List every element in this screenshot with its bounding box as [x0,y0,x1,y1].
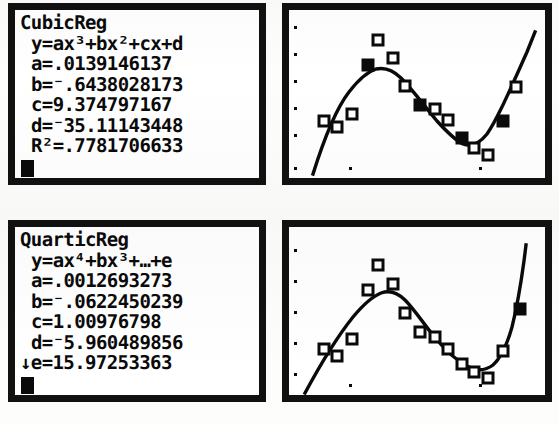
cubic-reg-equation: y=ax³+bx²+cx+d [20,34,255,55]
quartic-regression-result-screen: QuarticReg y=ax⁴+bx³+…+e a=.0012693273 b… [8,220,266,402]
cubic-r-squared: R²=.7781706633 [20,136,255,157]
quartic-regression-graph-screen [282,220,552,402]
cubic-coefficient-b: b=⁻.6438028173 [20,75,255,96]
cubic-regression-result-screen: CubicReg y=ax³+bx²+cx+d a=.0139146137 b=… [8,3,266,185]
plot-background [289,227,545,395]
cubic-coefficient-c: c=9.374797167 [20,95,255,116]
cubic-coefficient-d: d=⁻35.11143448 [20,116,255,137]
cubic-coefficient-a: a=.0139146137 [20,54,255,75]
cubic-reg-title: CubicReg [20,13,255,34]
cursor-block-icon [21,160,34,177]
figure-canvas: CubicReg y=ax³+bx²+cx+d a=.0139146137 b=… [0,0,559,425]
quartic-coefficient-d: d=⁻5.960489856 [20,333,255,354]
cursor-block-icon [21,377,34,394]
cubic-regression-graph-screen [282,3,552,185]
cubic-scatter-plot [289,10,545,178]
quartic-reg-equation: y=ax⁴+bx³+…+e [20,251,255,272]
quartic-coefficient-b: b=⁻.0622450239 [20,292,255,313]
quartic-reg-title: QuarticReg [20,230,255,251]
quartic-coefficient-e: ↓e=15.97253363 [20,353,255,374]
quartic-coefficient-c: c=1.00976798 [20,312,255,333]
quartic-scatter-plot [289,227,545,395]
quartic-coefficient-a: a=.0012693273 [20,271,255,292]
